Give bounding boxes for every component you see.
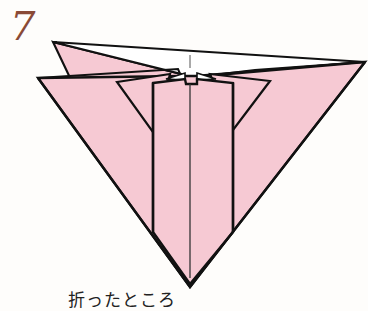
caption-text: 折ったところ: [68, 286, 176, 311]
